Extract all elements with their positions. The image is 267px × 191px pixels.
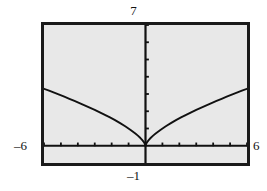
window-label-ymax: 7 (0, 4, 267, 17)
window-label-xmax: 6 (253, 139, 260, 152)
graph-plot-area (44, 25, 247, 163)
graph-svg (44, 25, 247, 163)
calculator-graph-screenshot: 7 –1 –6 6 (0, 0, 267, 191)
calculator-screen (41, 22, 250, 166)
window-label-ymin: –1 (0, 169, 267, 182)
window-label-xmin: –6 (14, 139, 27, 152)
